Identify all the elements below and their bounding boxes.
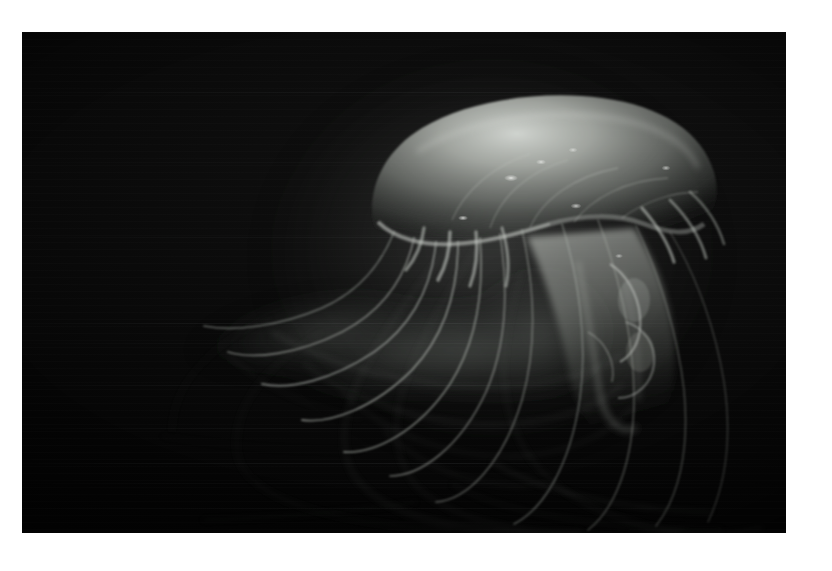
margin-left (0, 0, 22, 571)
margin-bottom (0, 533, 832, 571)
jellyfish-photograph (22, 32, 786, 533)
page-root (0, 0, 832, 571)
margin-right (786, 0, 832, 571)
photo-vignette (22, 32, 786, 533)
margin-top (0, 0, 832, 32)
